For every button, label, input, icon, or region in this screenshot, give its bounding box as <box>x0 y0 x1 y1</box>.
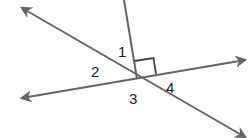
angle-label-1: 1 <box>118 43 126 60</box>
line-a <box>22 8 245 137</box>
angle-diagram: 1 2 3 4 <box>0 0 252 138</box>
diagram-canvas: 1 2 3 4 <box>0 0 252 138</box>
right-angle-marker <box>135 58 157 74</box>
angle-label-3: 3 <box>129 90 137 107</box>
angle-label-4: 4 <box>166 79 174 96</box>
angle-label-2: 2 <box>91 63 99 80</box>
